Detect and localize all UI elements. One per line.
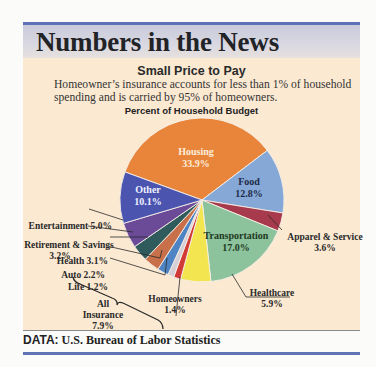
source-label: DATA:	[23, 333, 59, 347]
label-all-insurance-2: Insurance	[83, 310, 124, 320]
label-apparel: Apparel & Service	[287, 232, 362, 242]
pie-chart: Housing 33.9% Food 12.8% Other 10.1% Tra…	[0, 0, 376, 367]
label-healthcare-pct: 5.9%	[261, 299, 282, 309]
label-retirement: Retirement & Savings	[24, 240, 114, 250]
source-text: U.S. Bureau of Labor Statistics	[62, 333, 221, 347]
label-other: Other	[135, 184, 161, 195]
label-homeowners-pct: 1.4%	[164, 305, 185, 315]
label-homeowners: Homeowners	[148, 294, 202, 304]
label-entertainment: Entertainment 5.0%	[29, 221, 112, 231]
label-auto: Auto 2.2%	[61, 270, 105, 280]
label-housing: Housing	[178, 146, 214, 157]
label-housing-pct: 33.9%	[182, 158, 210, 169]
label-other-pct: 10.1%	[134, 196, 162, 207]
label-food-pct: 12.8%	[235, 188, 263, 199]
label-food: Food	[238, 176, 260, 187]
label-transportation: Transportation	[204, 230, 269, 241]
label-life: Life 1.2%	[68, 282, 108, 292]
source-line: DATA: U.S. Bureau of Labor Statistics	[23, 333, 220, 348]
footer-rule	[23, 330, 360, 331]
bottom-rule	[23, 352, 360, 355]
label-retirement-pct: 3.2%	[49, 251, 70, 261]
leader-entertainment	[89, 209, 123, 220]
label-transportation-pct: 17.0%	[222, 242, 250, 253]
label-all-insurance-1: All	[97, 299, 110, 309]
label-healthcare: Healthcare	[250, 288, 295, 298]
label-apparel-pct: 3.6%	[314, 243, 335, 253]
